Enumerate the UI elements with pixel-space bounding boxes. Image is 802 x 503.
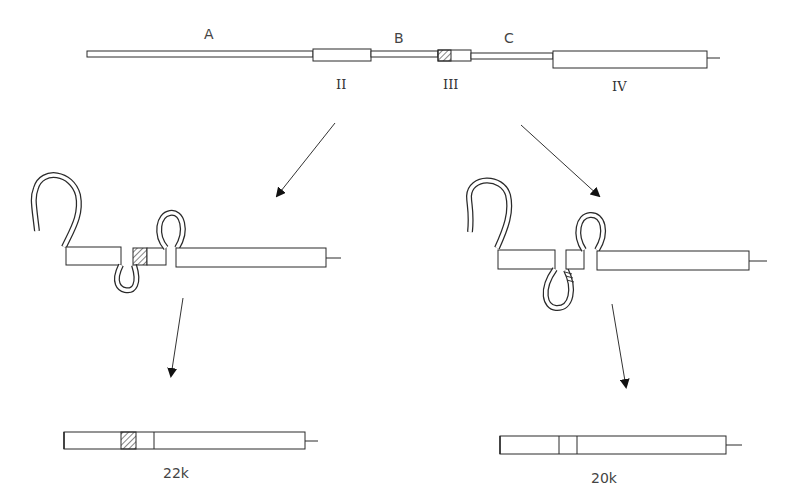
label-c: C bbox=[504, 30, 514, 46]
left-splicing-intermediate bbox=[34, 175, 341, 290]
arrow-right-product bbox=[612, 304, 626, 387]
intron-b bbox=[371, 51, 438, 57]
label-a: A bbox=[204, 26, 214, 42]
label-b: B bbox=[394, 30, 404, 46]
right-mrna-product bbox=[500, 436, 742, 454]
splicing-diagram: A B C II III IV bbox=[0, 0, 802, 503]
label-exon-ii: II bbox=[336, 77, 346, 92]
intron-c bbox=[471, 53, 553, 59]
product-label-22k: 22k bbox=[163, 465, 190, 481]
exon-iii-hatched bbox=[438, 50, 451, 61]
product-label-20k: 20k bbox=[591, 470, 618, 486]
label-exon-iv: IV bbox=[612, 79, 627, 94]
exon-iv bbox=[553, 51, 707, 68]
right-splicing-intermediate bbox=[469, 180, 767, 308]
arrow-right-down bbox=[521, 125, 599, 196]
intron-a bbox=[87, 51, 313, 57]
top-gene-structure bbox=[87, 49, 720, 68]
arrow-left-product bbox=[171, 298, 183, 376]
left-mrna-product bbox=[64, 432, 318, 449]
exon-ii bbox=[313, 49, 371, 61]
label-exon-iii: III bbox=[443, 77, 458, 92]
arrow-left-down bbox=[277, 123, 335, 196]
